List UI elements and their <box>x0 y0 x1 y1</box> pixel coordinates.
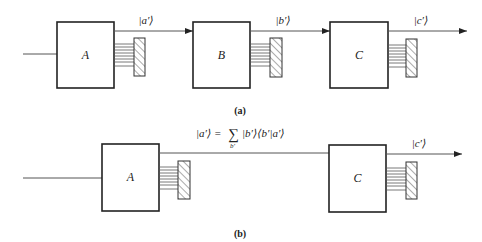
state-label-a-prime: |a′⟩ <box>138 14 153 26</box>
state-label-b-prime: |b′⟩ <box>275 14 290 26</box>
state-label-c-prime: |c′⟩ <box>414 14 429 26</box>
formula-sum-symbol: ∑ <box>228 126 239 143</box>
beam-stop-c <box>406 39 417 77</box>
diagram-canvas: A |a′⟩ B <box>0 0 482 242</box>
panel-b-caption: (b) <box>234 228 246 240</box>
apparatus-c-b: C <box>329 145 417 212</box>
panel-a: A |a′⟩ B <box>23 14 467 117</box>
blocked-beams-b <box>250 44 270 66</box>
panel-b: A |a′⟩ = ∑ b′ |b′⟩⟨b′|a′⟩ C <box>23 126 462 240</box>
box-a-b-label: A <box>126 170 135 184</box>
formula-sum-index: b′ <box>230 142 236 150</box>
apparatus-a: A <box>57 22 145 88</box>
beam-stop-a-b <box>178 161 190 199</box>
formula-lhs: |a′⟩ = <box>196 127 221 139</box>
apparatus-b: B <box>193 22 282 88</box>
box-b-label: B <box>218 48 226 62</box>
apparatus-c: C <box>330 22 417 88</box>
beam-stop-a <box>134 38 145 76</box>
blocked-beams-a <box>114 44 134 66</box>
blocked-beams-c-b <box>386 168 406 190</box>
beam-stop-b <box>270 38 282 77</box>
box-a-label: A <box>81 48 90 62</box>
beam-stop-c-b <box>406 162 417 199</box>
state-label-c-prime-b: |c′⟩ <box>412 137 427 149</box>
formula-rhs: |b′⟩⟨b′|a′⟩ <box>242 127 285 139</box>
blocked-beams-a-b <box>159 167 178 189</box>
panel-a-caption: (a) <box>234 105 246 117</box>
superposition-formula: |a′⟩ = ∑ b′ |b′⟩⟨b′|a′⟩ <box>196 126 285 150</box>
blocked-beams-c <box>388 45 406 67</box>
apparatus-a-b: A <box>102 144 190 211</box>
box-c-b-label: C <box>353 171 362 185</box>
box-c-label: C <box>355 48 364 62</box>
